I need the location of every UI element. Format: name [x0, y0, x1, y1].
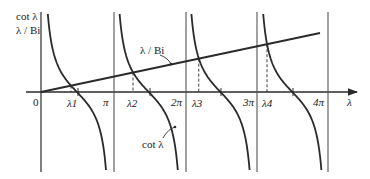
line-curve-label: λ / Bi — [140, 44, 164, 56]
root-dashed-lines — [71, 44, 267, 92]
cot-curve-label: cot λ — [142, 138, 164, 150]
root-label-2: λ2 — [126, 97, 138, 109]
root-label-3: λ3 — [191, 97, 203, 109]
line-label-leader — [160, 55, 171, 64]
y-axis-label-line: λ / Bi — [16, 24, 40, 36]
diagram-canvas: cot λ λ / Bi 0 π 2π 3π 4π λ1 λ2 λ3 λ4 λ … — [0, 0, 370, 179]
tick-label-2pi: 2π — [171, 96, 183, 108]
lambda-over-bi-line — [41, 33, 320, 92]
tick-label-3pi: 3π — [242, 96, 255, 108]
origin-label: 0 — [33, 96, 39, 108]
tick-label-pi: π — [103, 96, 109, 108]
x-axis-label: λ — [346, 96, 352, 108]
cot-curves — [43, 0, 326, 179]
y-axis-label-cot: cot λ — [16, 10, 38, 22]
root-label-4: λ4 — [261, 97, 273, 109]
root-label-1: λ1 — [66, 97, 77, 109]
tick-label-4pi: 4π — [313, 96, 325, 108]
